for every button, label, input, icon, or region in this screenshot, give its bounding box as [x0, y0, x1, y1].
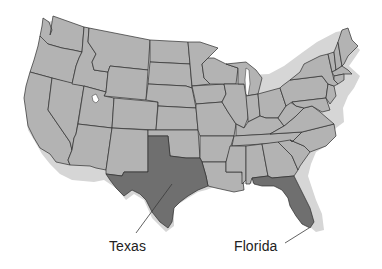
state-montana[interactable]	[88, 28, 150, 72]
texas-label: Texas	[109, 238, 146, 254]
us-map: Texas Florida	[0, 0, 382, 269]
state-north-dakota[interactable]	[150, 40, 190, 64]
state-colorado[interactable]	[112, 98, 158, 130]
florida-label: Florida	[234, 238, 278, 254]
state-iowa[interactable]	[192, 84, 226, 104]
state-wisconsin[interactable]	[202, 58, 238, 84]
state-wyoming[interactable]	[104, 66, 148, 100]
state-kansas[interactable]	[156, 106, 198, 130]
us-map-svg	[0, 0, 382, 269]
state-new-mexico[interactable]	[106, 128, 148, 176]
florida-leader-line	[285, 228, 309, 243]
